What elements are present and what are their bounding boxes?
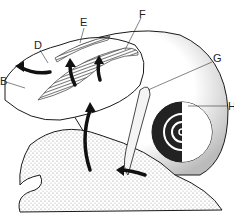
shell-illustration xyxy=(0,0,234,222)
label-F: F xyxy=(139,9,146,20)
label-B: B xyxy=(0,76,7,87)
label-G: G xyxy=(213,53,222,64)
diagram-figure: B D E F G H xyxy=(0,0,234,222)
label-D: D xyxy=(34,40,42,51)
label-H: H xyxy=(228,101,234,112)
label-E: E xyxy=(80,17,87,28)
